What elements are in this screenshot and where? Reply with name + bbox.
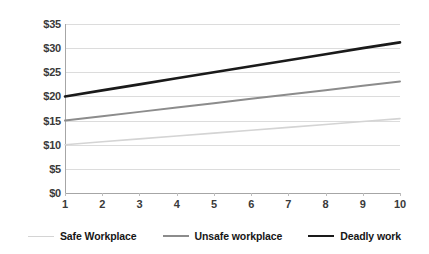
x-axis-tick-labels: 12345678910	[65, 198, 400, 214]
x-axis-line	[65, 193, 400, 194]
x-tick-mark	[65, 193, 66, 196]
x-tick-label: 1	[62, 198, 68, 210]
legend-line-swatch	[163, 235, 189, 237]
x-tick-label: 6	[248, 198, 254, 210]
chart-legend: Safe WorkplaceUnsafe workplaceDeadly wor…	[0, 226, 429, 246]
line-chart: $0$5$10$15$20$25$30$35 12345678910 Safe …	[0, 0, 429, 254]
legend-line-swatch	[308, 235, 334, 237]
legend-label: Safe Workplace	[60, 230, 137, 242]
y-tick-label: $0	[3, 188, 61, 199]
x-tick-label: 5	[211, 198, 217, 210]
x-tick-label: 3	[136, 198, 142, 210]
legend-line-swatch	[28, 236, 54, 237]
y-tick-label: $25	[3, 67, 61, 78]
legend-label: Deadly work	[340, 230, 401, 242]
x-tick-mark	[214, 193, 215, 196]
x-tick-mark	[400, 193, 401, 196]
legend-item[interactable]: Deadly work	[308, 230, 401, 242]
y-tick-label: $30	[3, 43, 61, 54]
legend-item[interactable]: Unsafe workplace	[163, 230, 283, 242]
x-tick-label: 4	[174, 198, 180, 210]
x-tick-mark	[102, 193, 103, 196]
y-tick-label: $10	[3, 140, 61, 151]
y-tick-label: $5	[3, 164, 61, 175]
plot-area	[65, 24, 400, 193]
x-tick-label: 10	[394, 198, 406, 210]
y-axis-tick-labels: $0$5$10$15$20$25$30$35	[0, 0, 61, 254]
x-tick-mark	[288, 193, 289, 196]
x-tick-label: 7	[285, 198, 291, 210]
x-tick-label: 2	[99, 198, 105, 210]
x-tick-label: 8	[323, 198, 329, 210]
x-tick-mark	[177, 193, 178, 196]
legend-item[interactable]: Safe Workplace	[28, 230, 137, 242]
x-tick-mark	[363, 193, 364, 196]
y-tick-label: $15	[3, 116, 61, 127]
x-tick-mark	[251, 193, 252, 196]
x-tick-mark	[139, 193, 140, 196]
y-tick-label: $20	[3, 91, 61, 102]
series-line	[65, 119, 400, 145]
legend-label: Unsafe workplace	[195, 230, 283, 242]
y-tick-label: $35	[3, 19, 61, 30]
series-lines	[65, 24, 400, 193]
x-tick-label: 9	[360, 198, 366, 210]
x-tick-mark	[326, 193, 327, 196]
